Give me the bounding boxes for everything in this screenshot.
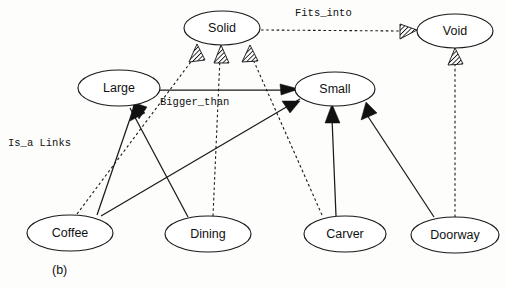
node-large-label: Large [103, 81, 135, 95]
node-void[interactable]: Void [417, 14, 493, 48]
node-void-label: Void [443, 24, 467, 38]
node-carver-label: Carver [326, 227, 364, 241]
arrowhead-solid-void [400, 24, 417, 39]
label-bigger-than: Bigger_than [160, 96, 229, 108]
node-dining[interactable]: Dining [165, 216, 251, 252]
node-doorway-label: Doorway [430, 228, 480, 242]
figure-diagram: Solid Void Large Small Coffee Dining Car… [0, 0, 506, 288]
arrowhead-dining-solid [214, 45, 229, 63]
arrowhead-coffee-solid [189, 44, 205, 62]
node-coffee-label: Coffee [52, 226, 89, 240]
node-small[interactable]: Small [295, 72, 375, 106]
edge-doorway-small [367, 115, 434, 217]
node-small-label: Small [319, 82, 350, 96]
arrowhead-dining-small [282, 101, 300, 113]
edge-dining-solid [213, 57, 220, 216]
node-carver[interactable]: Carver [304, 216, 386, 252]
node-large[interactable]: Large [78, 70, 160, 106]
edge-solid-void-fits-into [261, 30, 404, 31]
arrowhead-carver-small [325, 104, 340, 123]
edge-dining-large [130, 108, 188, 217]
node-solid[interactable]: Solid [184, 11, 260, 45]
node-doorway[interactable]: Doorway [411, 217, 499, 253]
node-solid-label: Solid [208, 21, 236, 35]
arrowhead-carver-solid [242, 45, 258, 62]
semantic-network-graph: Solid Void Large Small Coffee Dining Car… [0, 0, 506, 288]
arrowhead-doorway-void [448, 48, 463, 65]
node-dining-label: Dining [190, 227, 225, 241]
edge-carver-small [332, 118, 336, 216]
node-coffee[interactable]: Coffee [27, 215, 113, 251]
label-is-a-links: Is_a Links [8, 137, 71, 149]
figure-caption: (b) [52, 263, 67, 277]
label-fits-into: Fits_into [295, 7, 352, 19]
